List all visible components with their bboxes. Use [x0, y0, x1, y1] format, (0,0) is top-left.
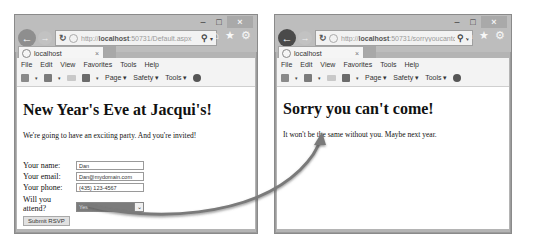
home-page-icon[interactable] — [21, 74, 29, 82]
address-bar[interactable]: ↻ http://localhost:50731/Default.aspx ⚲ … — [55, 30, 217, 46]
tab-title: localhost — [34, 50, 95, 57]
settings-gear-icon[interactable]: ⚙ — [241, 29, 251, 42]
address-bar[interactable]: ↻ http://localhost:50731/sorryyoucantcom… — [315, 30, 473, 46]
browser-tools: ⌂ ★ ⚙ — [212, 29, 251, 42]
dropdown-icon[interactable]: ▾ — [295, 75, 298, 81]
menu-tools[interactable]: Tools — [380, 61, 396, 71]
new-tab-button[interactable] — [104, 46, 116, 58]
dropdown-icon[interactable]: ▾ — [96, 75, 99, 81]
menu-file[interactable]: File — [281, 61, 292, 71]
maximize-button[interactable]: □ — [465, 16, 481, 28]
rsvp-form: Your name: Your email: Your phone: Will … — [23, 160, 144, 226]
name-input[interactable] — [76, 161, 144, 170]
page-menu[interactable]: Page ▾ — [105, 74, 127, 82]
menu-view[interactable]: View — [60, 61, 75, 71]
site-globe-icon — [69, 34, 78, 43]
address-url[interactable]: http://localhost:50731/Default.aspx — [81, 35, 199, 42]
tab-close-icon[interactable]: × — [355, 50, 363, 57]
dropdown-icon[interactable]: ▾ — [356, 75, 359, 81]
minimize-button[interactable]: – — [195, 16, 211, 28]
sorry-message: It won't be the same without you. Maybe … — [283, 130, 509, 139]
safety-menu[interactable]: Safety ▾ — [393, 74, 419, 82]
window-controls: – □ × — [195, 15, 253, 29]
browser-chrome: File Edit View Favorites Tools Help ▾ ▾ … — [277, 58, 509, 87]
tab-close-icon[interactable]: × — [95, 50, 103, 57]
back-button[interactable]: ← — [18, 29, 36, 47]
maximize-button[interactable]: □ — [211, 16, 227, 28]
close-button[interactable]: × — [481, 16, 507, 28]
site-globe-icon — [329, 34, 338, 43]
tools-menu[interactable]: Tools ▾ — [165, 74, 187, 82]
favorites-star-icon[interactable]: ★ — [479, 29, 489, 42]
home-icon[interactable]: ⌂ — [212, 29, 219, 42]
home-page-icon[interactable] — [281, 74, 289, 82]
print-icon[interactable] — [342, 74, 350, 82]
browser-window-left: – □ × ← → ↻ http://localhost:50731/Defau… — [14, 14, 258, 234]
menu-file[interactable]: File — [21, 61, 32, 71]
tab-favicon-icon — [282, 49, 291, 58]
attend-selected-value: Yes — [77, 204, 134, 210]
help-icon[interactable] — [193, 74, 201, 82]
window-controls: – □ × — [449, 15, 507, 29]
refresh-icon[interactable]: ↻ — [319, 33, 327, 43]
email-label: Your email: — [23, 172, 76, 181]
menu-help[interactable]: Help — [145, 61, 159, 71]
dropdown-icon[interactable]: ▾ — [35, 75, 38, 81]
search-icon[interactable]: ⚲ — [455, 33, 466, 43]
browser-chrome: File Edit View Favorites Tools Help ▾ ▾ … — [17, 58, 255, 87]
browser-tools: ⌂ ★ ⚙ — [466, 29, 505, 42]
search-icon[interactable]: ⚲ — [199, 33, 210, 43]
chevron-down-icon[interactable]: ⌄ — [134, 203, 143, 211]
phone-label: Your phone: — [23, 183, 76, 192]
favorites-star-icon[interactable]: ★ — [225, 29, 235, 42]
name-label: Your name: — [23, 161, 76, 170]
refresh-icon[interactable]: ↻ — [59, 33, 67, 43]
page-title: New Year's Eve at Jacqui's! — [23, 101, 255, 119]
back-button[interactable]: ← — [278, 29, 296, 47]
intro-text: We're going to have an exciting party. A… — [23, 131, 255, 140]
menu-bar: File Edit View Favorites Tools Help — [277, 58, 509, 71]
page-menu[interactable]: Page ▾ — [365, 74, 387, 82]
phone-input[interactable] — [76, 183, 144, 192]
safety-menu[interactable]: Safety ▾ — [133, 74, 159, 82]
menu-tools[interactable]: Tools — [120, 61, 136, 71]
command-bar: ▾ ▾ ▾ Page ▾ Safety ▾ Tools ▾ — [17, 71, 255, 82]
forward-button[interactable]: → — [38, 31, 52, 45]
menu-favorites[interactable]: Favorites — [343, 61, 372, 71]
menu-bar: File Edit View Favorites Tools Help — [17, 58, 255, 71]
email-input[interactable] — [76, 172, 144, 181]
tools-menu[interactable]: Tools ▾ — [425, 74, 447, 82]
dropdown-icon[interactable]: ▾ — [318, 75, 321, 81]
command-bar: ▾ ▾ ▾ Page ▾ Safety ▾ Tools ▾ — [277, 71, 509, 82]
menu-edit[interactable]: Edit — [40, 61, 52, 71]
page-content: Sorry you can't come! It won't be the sa… — [277, 87, 509, 229]
browser-window-right: – □ × ← → ↻ http://localhost:50731/sorry… — [274, 14, 512, 234]
settings-gear-icon[interactable]: ⚙ — [495, 29, 505, 42]
close-button[interactable]: × — [227, 16, 253, 28]
minimize-button[interactable]: – — [449, 16, 465, 28]
attend-select[interactable]: Yes ⌄ — [76, 202, 144, 212]
tab-favicon-icon — [22, 49, 31, 58]
feeds-icon[interactable] — [44, 74, 52, 82]
menu-view[interactable]: View — [320, 61, 335, 71]
submit-rsvp-button[interactable]: Submit RSVP — [23, 216, 70, 226]
feeds-icon[interactable] — [304, 74, 312, 82]
mail-icon[interactable] — [327, 75, 336, 81]
menu-favorites[interactable]: Favorites — [83, 61, 112, 71]
tab-title: localhost — [294, 50, 355, 57]
page-content: New Year's Eve at Jacqui's! We're going … — [17, 87, 255, 229]
address-url[interactable]: http://localhost:50731/sorryyoucantcome — [341, 35, 455, 42]
print-icon[interactable] — [82, 74, 90, 82]
menu-help[interactable]: Help — [405, 61, 419, 71]
forward-button[interactable]: → — [298, 31, 312, 45]
attend-label: Will youattend? — [23, 195, 76, 213]
new-tab-button[interactable] — [364, 46, 376, 58]
help-icon[interactable] — [453, 74, 461, 82]
mail-icon[interactable] — [67, 75, 76, 81]
home-icon[interactable]: ⌂ — [466, 29, 473, 42]
menu-edit[interactable]: Edit — [300, 61, 312, 71]
page-title: Sorry you can't come! — [283, 100, 509, 118]
dropdown-icon[interactable]: ▾ — [58, 75, 61, 81]
